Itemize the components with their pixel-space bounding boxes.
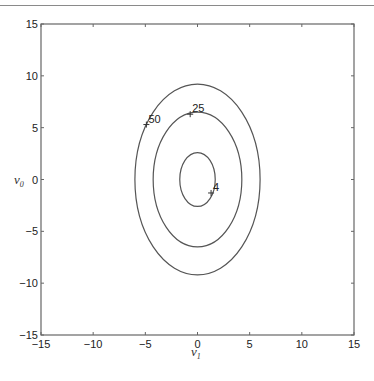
x-tick-label: 5	[247, 338, 253, 350]
contour-label-50: 50	[148, 113, 160, 125]
axes: −15−10−5051015−15−10−5051015	[19, 18, 360, 350]
x-tick-label: 10	[296, 338, 308, 350]
contour-label-25: 25	[192, 102, 204, 114]
y-tick-label: 5	[32, 122, 38, 134]
plot-frame	[41, 24, 354, 335]
y-tick-label: −10	[19, 277, 38, 289]
contour-level-25	[153, 112, 242, 247]
contour-level-4	[180, 153, 215, 207]
y-axis-label: v0	[14, 172, 24, 189]
x-tick-label: −5	[139, 338, 152, 350]
y-tick-label: 0	[32, 174, 38, 186]
x-tick-label: −10	[84, 338, 103, 350]
y-tick-label: −15	[19, 329, 38, 341]
y-tick-label: 10	[26, 70, 38, 82]
contour-chart: −15−10−5051015−15−10−5051015 42550 v1 v0	[0, 0, 374, 381]
y-tick-label: 15	[26, 18, 38, 30]
y-tick-label: −5	[25, 225, 38, 237]
contour-label-4: 4	[213, 181, 219, 193]
x-tick-label: 15	[348, 338, 360, 350]
